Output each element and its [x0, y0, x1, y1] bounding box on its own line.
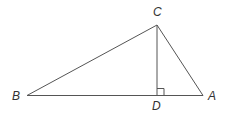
triangle-diagram: C B A D — [0, 0, 228, 117]
label-a: A — [207, 89, 216, 103]
label-c: C — [153, 5, 162, 19]
right-angle-marker — [157, 89, 164, 96]
label-d: D — [152, 99, 161, 113]
label-b: B — [12, 89, 20, 103]
segment-ca — [157, 25, 203, 96]
segment-bc — [27, 25, 157, 96]
